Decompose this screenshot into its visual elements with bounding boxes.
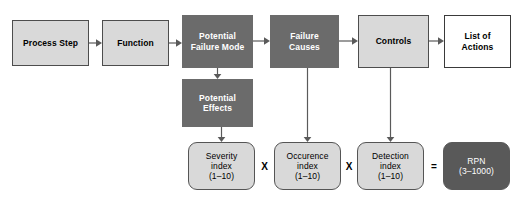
node-occurrence-index[interactable]: Occurenceindex(1–10)	[274, 142, 341, 190]
operator-multiply-2: X	[341, 158, 357, 174]
arrow-controls-to-list-of-actions	[429, 37, 444, 45]
arrow-potential-failure-mode-to-failure-causes	[253, 37, 270, 45]
arrow-function-to-potential-failure-mode	[169, 39, 182, 47]
node-function-label: Function	[115, 38, 156, 48]
arrow-failure-causes-to-occurrence-index	[304, 68, 312, 142]
operator-multiply-2-symbol: X	[346, 161, 353, 172]
operator-equals: =	[425, 158, 443, 174]
node-failure-causes-label: FailureCauses	[287, 31, 322, 51]
node-controls-label: Controls	[374, 36, 414, 46]
arrow-potential-failure-mode-to-potential-effects	[214, 68, 222, 79]
node-controls[interactable]: Controls	[358, 15, 429, 68]
node-rpn-label: RPN(3–1000)	[457, 156, 496, 176]
node-rpn[interactable]: RPN(3–1000)	[443, 142, 510, 190]
node-potential-failure-mode-label: PotentialFailure Mode	[189, 31, 247, 51]
node-process-step-label: Process Step	[21, 38, 80, 48]
node-list-of-actions[interactable]: List ofActions	[444, 15, 511, 68]
node-detection-index[interactable]: Detectionindex(1–10)	[357, 142, 424, 190]
node-potential-effects[interactable]: PotentialEffects	[182, 79, 253, 127]
node-potential-effects-label: PotentialEffects	[197, 93, 238, 113]
fmea-process-flow-diagram: Process Step Function PotentialFailure M…	[0, 0, 521, 205]
node-failure-causes[interactable]: FailureCauses	[270, 15, 339, 68]
arrow-process-step-to-function	[89, 39, 102, 47]
node-process-step[interactable]: Process Step	[12, 20, 89, 66]
operator-equals-symbol: =	[431, 161, 437, 172]
arrow-potential-effects-to-severity-index	[218, 127, 226, 142]
operator-multiply-1: X	[255, 158, 274, 174]
node-function[interactable]: Function	[102, 20, 169, 66]
node-severity-index[interactable]: Severityindex(1–10)	[188, 142, 255, 190]
arrow-failure-causes-to-controls	[339, 37, 358, 45]
operator-multiply-1-symbol: X	[261, 161, 268, 172]
arrow-controls-to-detection-index	[387, 68, 395, 142]
node-list-of-actions-label: List ofActions	[460, 31, 496, 51]
node-severity-index-label: Severityindex(1–10)	[204, 151, 240, 181]
node-detection-index-label: Detectionindex(1–10)	[370, 151, 411, 181]
node-potential-failure-mode[interactable]: PotentialFailure Mode	[182, 15, 253, 68]
node-occurrence-index-label: Occurenceindex(1–10)	[284, 151, 330, 181]
